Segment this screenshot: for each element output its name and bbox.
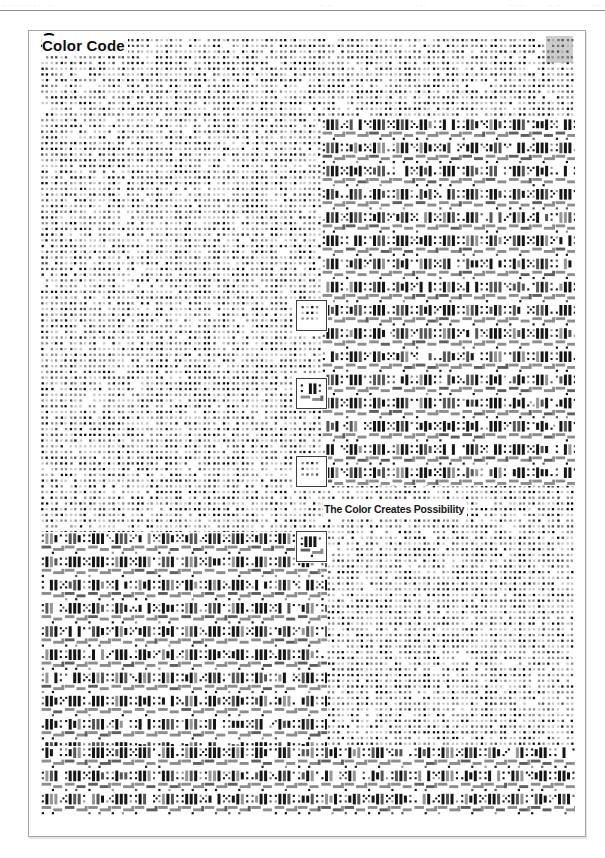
print-preview-page: ·· ····· ···· · · ·· ·· ·· ·· ·· ·· ··· … <box>0 0 605 858</box>
print-header-right-marks-2: ·· ·· <box>548 2 561 8</box>
header-rule <box>0 10 605 11</box>
poster: Color Code The Color Creates Possibility <box>28 30 586 837</box>
print-header-right-marks-3: ··· <box>592 2 600 8</box>
pattern-canvas <box>29 31 585 836</box>
print-header-mid-marks-2: ·· ·· <box>413 2 426 8</box>
highlight-swatch <box>546 36 573 63</box>
poster-tagline: The Color Creates Possibility <box>323 502 467 517</box>
swatch-box-2-code <box>296 378 327 409</box>
title-arc-decoration <box>42 33 56 42</box>
print-header-right-marks-1: ·· ··· <box>510 2 526 8</box>
print-header-mid-marks-1: ·· ·· <box>320 2 333 8</box>
swatch-box-3-dots <box>296 456 327 487</box>
swatch-box-1-dots <box>296 300 327 331</box>
print-header-left-marks: ·· ····· ···· · · ·· <box>2 2 54 8</box>
swatch-box-4-code <box>296 531 327 562</box>
